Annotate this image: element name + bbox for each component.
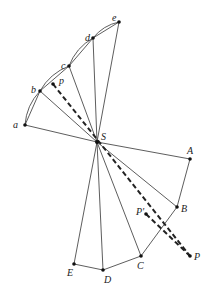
- point-S: [95, 140, 99, 144]
- edge-DE: [74, 264, 103, 270]
- label-e: e: [112, 12, 117, 23]
- ray-S-C: [97, 142, 141, 256]
- label-c: c: [61, 60, 66, 71]
- chord-de: [93, 22, 119, 38]
- label-E: E: [66, 267, 73, 278]
- dashed-line-p-P: [53, 84, 190, 256]
- label-b: b: [31, 84, 36, 95]
- ray-S-a: [25, 125, 97, 142]
- label-D: D: [103, 274, 112, 285]
- point-b: [38, 89, 42, 93]
- point-E: [72, 262, 76, 266]
- ray-S-c: [69, 66, 97, 142]
- ray-S-B: [97, 142, 177, 207]
- ray-S-b: [40, 91, 97, 142]
- ray-S-d: [93, 38, 97, 142]
- point-B: [175, 205, 179, 209]
- point-d: [91, 36, 95, 40]
- edge-AB: [177, 159, 190, 207]
- chord-ab: [25, 91, 40, 125]
- edge-CD: [103, 256, 141, 270]
- point-c: [67, 64, 71, 68]
- point-C: [139, 254, 143, 258]
- diagram-canvas: abcdeABCDEpPP'S: [0, 0, 210, 294]
- point-D: [101, 268, 105, 272]
- ray-S-E: [74, 142, 97, 264]
- label-P': P': [135, 206, 145, 217]
- label-A: A: [186, 145, 194, 156]
- label-B: B: [181, 203, 187, 214]
- label-S: S: [101, 131, 106, 142]
- point-a: [23, 123, 27, 127]
- label-P: P: [193, 251, 200, 262]
- kepler-diagram: abcdeABCDEpPP'S: [0, 0, 210, 294]
- point-p: [51, 82, 55, 86]
- point-P: [188, 254, 192, 258]
- point-P': [144, 212, 148, 216]
- ray-S-e: [97, 22, 119, 142]
- label-C: C: [137, 260, 144, 271]
- ray-S-D: [97, 142, 103, 270]
- point-A: [188, 157, 192, 161]
- label-p: p: [58, 75, 64, 86]
- dashed-line-Pprime-P: [146, 214, 190, 256]
- label-a: a: [13, 119, 18, 130]
- point-e: [117, 20, 121, 24]
